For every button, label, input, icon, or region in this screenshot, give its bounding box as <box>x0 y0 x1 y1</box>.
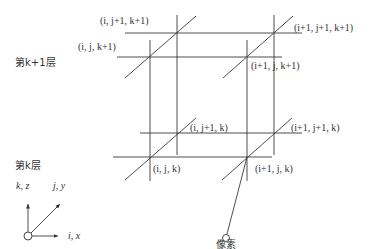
label-i-j-k1: (i, j, k+1) <box>78 41 116 53</box>
label-i1-j-k1: (i+1, j, k+1) <box>251 60 300 72</box>
pixel-pointer-line <box>227 157 247 234</box>
y-axis-arrow <box>31 204 60 233</box>
label-i-j-k: (i, j, k) <box>153 163 180 175</box>
voxel-grid-diagram: 像素 (i, j+1, k+1) (i, j, k+1) (i+1, j+1, … <box>0 0 376 249</box>
upper-layer-label: 第k+1层 <box>15 56 56 68</box>
x-axis-label: i, x <box>68 230 81 241</box>
label-i-j1-k: (i, j+1, k) <box>190 122 228 134</box>
y-axis-label: j, y <box>51 180 66 191</box>
coordinate-axes: k, z j, y i, x <box>16 180 81 241</box>
z-axis-label: k, z <box>16 180 29 191</box>
label-i1-j1-k: (i+1, j+1, k) <box>291 122 340 134</box>
lower-layer-label: 第k层 <box>15 159 41 171</box>
pixel-label: 像素 <box>216 238 236 249</box>
origin-circle <box>24 232 32 240</box>
label-i1-j-k: (i+1, j, k) <box>255 163 293 175</box>
label-i-j1-k1: (i, j+1, k+1) <box>100 15 149 27</box>
label-i1-j1-k1: (i+1, j+1, k+1) <box>294 22 353 34</box>
